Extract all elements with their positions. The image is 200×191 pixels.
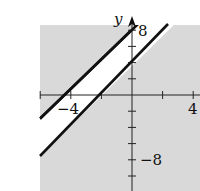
y-tick-label-8: 8 xyxy=(138,24,148,39)
y-axis-label: y xyxy=(114,12,122,27)
y-tick-label-neg8: −8 xyxy=(140,153,162,168)
x-tick-label-neg4: −4 xyxy=(57,102,79,117)
x-tick-label-4: 4 xyxy=(188,102,198,117)
inequality-graph xyxy=(0,0,200,191)
